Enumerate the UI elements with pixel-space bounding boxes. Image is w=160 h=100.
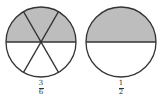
numerator: 1	[111, 80, 131, 87]
shaded-region-sixths	[6, 7, 76, 42]
fraction-label-sixths: 3 6	[31, 80, 51, 96]
numerator: 3	[31, 80, 51, 87]
denominator: 2	[111, 89, 131, 96]
fraction-circles-diagram	[0, 0, 160, 100]
circle-halves	[86, 7, 156, 77]
shaded-region-halves	[86, 7, 156, 42]
circle-sixths	[6, 7, 76, 77]
denominator: 6	[31, 89, 51, 96]
fraction-label-halves: 1 2	[111, 80, 131, 96]
